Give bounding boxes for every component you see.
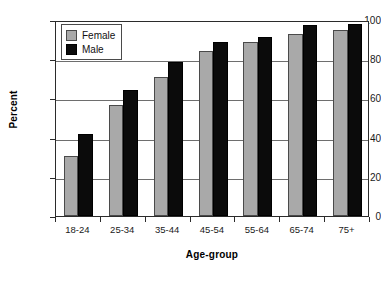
x-axis-category-label: 25-34 (100, 224, 145, 235)
x-axis-tick (279, 217, 280, 222)
x-axis-tick (190, 217, 191, 222)
bar-male-55-64 (258, 37, 273, 216)
legend-label-male: Male (82, 44, 104, 55)
bar-female-25-34 (109, 105, 124, 216)
legend-item-female: Female (66, 28, 115, 42)
legend-swatch-female-icon (66, 30, 77, 41)
bar-male-75+ (348, 24, 363, 216)
y-axis-title: Percent (8, 70, 19, 150)
bar-male-18-24 (78, 134, 93, 216)
x-axis-category-label: 75+ (324, 224, 369, 235)
legend-label-female: Female (82, 30, 115, 41)
legend-swatch-male-icon (66, 44, 77, 55)
x-axis-tick (369, 217, 370, 222)
x-axis-tick (55, 217, 56, 222)
x-axis-category-label: 35-44 (145, 224, 190, 235)
x-axis-category-label: 55-64 (234, 224, 279, 235)
bar-female-35-44 (154, 77, 169, 216)
bar-chart: Percent 020406080100 18-2425-3435-4445-5… (0, 0, 381, 300)
legend: Female Male (61, 24, 122, 60)
x-axis-tick (324, 217, 325, 222)
bar-female-45-54 (199, 51, 214, 216)
bar-female-65-74 (288, 34, 303, 216)
legend-item-male: Male (66, 42, 115, 56)
bar-female-18-24 (64, 156, 79, 216)
bar-male-45-54 (213, 42, 228, 216)
x-axis-title: Age-group (55, 249, 369, 260)
x-axis-tick (145, 217, 146, 222)
x-axis-category-label: 65-74 (279, 224, 324, 235)
x-axis-category-label: 45-54 (190, 224, 235, 235)
bar-female-75+ (333, 30, 348, 216)
bar-male-25-34 (123, 90, 138, 216)
bar-male-35-44 (168, 62, 183, 216)
bar-male-65-74 (303, 25, 318, 216)
bar-female-55-64 (243, 42, 258, 216)
x-axis-tick (234, 217, 235, 222)
x-axis-category-label: 18-24 (55, 224, 100, 235)
x-axis-tick (100, 217, 101, 222)
